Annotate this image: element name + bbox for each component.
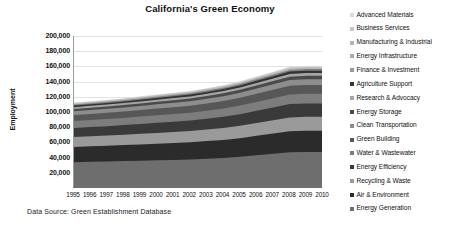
legend-swatch-icon [350, 110, 354, 114]
legend-item[interactable]: Energy Storage [350, 105, 460, 119]
x-axis-tick-labels: 1995199619971998199920002001200220032004… [73, 191, 322, 203]
legend-swatch-icon [350, 193, 354, 197]
legend-item[interactable]: Energy Infrastructure [350, 50, 460, 64]
x-tick-label: 1998 [114, 191, 132, 198]
y-tick-label: 20,000 [20, 169, 70, 176]
x-tick-label: 2003 [197, 191, 215, 198]
legend-item[interactable]: Air & Environment [350, 188, 460, 202]
x-tick-label: 2010 [313, 191, 331, 198]
legend-item[interactable]: Energy Efficiency [350, 160, 460, 174]
legend-item[interactable]: Energy Generation [350, 202, 460, 216]
x-tick-label: 2008 [280, 191, 298, 198]
x-tick-label: 2001 [164, 191, 182, 198]
y-axis-tick-labels: 20,00040,00060,00080,000100,000120,00014… [20, 30, 70, 195]
stacked-area-series [74, 36, 322, 188]
plot-area [73, 36, 322, 188]
legend-item[interactable]: Finance & Investment [350, 63, 460, 77]
legend-label: Energy Infrastructure [357, 53, 418, 60]
legend-swatch-icon [350, 27, 354, 31]
legend-swatch-icon [350, 179, 354, 183]
legend-label: Energy Efficiency [357, 164, 407, 171]
x-tick-label: 2005 [230, 191, 248, 198]
y-tick-label: 140,000 [20, 78, 70, 85]
y-tick-label: 200,000 [20, 32, 70, 39]
x-tick-label: 1995 [64, 191, 82, 198]
x-tick-label: 2004 [213, 191, 231, 198]
legend-item[interactable]: Business Services [350, 22, 460, 36]
legend-label: Energy Generation [357, 205, 412, 212]
legend-swatch-icon [350, 124, 354, 128]
x-tick-label: 2002 [180, 191, 198, 198]
x-tick-label: 2009 [296, 191, 314, 198]
y-tick-label: 160,000 [20, 62, 70, 69]
legend-swatch-icon [350, 165, 354, 169]
legend-label: Research & Advocacy [357, 95, 421, 102]
legend-label: Air & Environment [357, 192, 409, 199]
x-tick-label: 1999 [130, 191, 148, 198]
legend-label: Clean Transportation [357, 122, 417, 129]
legend-swatch-icon [350, 13, 354, 17]
legend-swatch-icon [350, 82, 354, 86]
legend-swatch-icon [350, 138, 354, 142]
legend-swatch-icon [350, 68, 354, 72]
y-tick-label: 120,000 [20, 93, 70, 100]
legend-item[interactable]: Manufacturing & Industrial [350, 36, 460, 50]
legend-label: Recycling & Waste [357, 178, 411, 185]
legend-label: Manufacturing & Industrial [357, 39, 432, 46]
legend-label: Green Building [357, 136, 400, 143]
legend-label: Energy Storage [357, 109, 402, 116]
x-tick-label: 1996 [81, 191, 99, 198]
x-tick-label: 2007 [263, 191, 281, 198]
legend-label: Advanced Materials [357, 12, 414, 19]
legend-swatch-icon [350, 207, 354, 211]
y-tick-label: 100,000 [20, 108, 70, 115]
legend-item[interactable]: Research & Advocacy [350, 91, 460, 105]
legend-item[interactable]: Green Building [350, 133, 460, 147]
x-tick-label: 2000 [147, 191, 165, 198]
legend-label: Agriculture Support [357, 81, 413, 88]
legend-label: Business Services [357, 25, 410, 32]
legend-item[interactable]: Clean Transportation [350, 119, 460, 133]
legend-swatch-icon [350, 151, 354, 155]
x-tick-label: 1997 [97, 191, 115, 198]
y-tick-label: 180,000 [20, 47, 70, 54]
legend-item[interactable]: Advanced Materials [350, 8, 460, 22]
legend-item[interactable]: Recycling & Waste [350, 174, 460, 188]
legend-item[interactable]: Water & Wastewater [350, 146, 460, 160]
legend-swatch-icon [350, 96, 354, 100]
y-axis-title: Employment [9, 79, 16, 141]
chart-container: California's Green Economy 20,00040,0006… [0, 0, 460, 227]
source-note: Data Source: Green Establishment Databas… [27, 208, 171, 215]
y-tick-label: 80,000 [20, 123, 70, 130]
legend-swatch-icon [350, 54, 354, 58]
legend-label: Finance & Investment [357, 67, 420, 74]
chart-title: California's Green Economy [110, 3, 310, 14]
legend-item[interactable]: Agriculture Support [350, 77, 460, 91]
x-tick-label: 2006 [247, 191, 265, 198]
chart-legend: Advanced MaterialsBusiness ServicesManuf… [350, 8, 460, 216]
y-tick-label: 40,000 [20, 154, 70, 161]
y-tick-label: 60,000 [20, 138, 70, 145]
legend-swatch-icon [350, 41, 354, 45]
legend-label: Water & Wastewater [357, 150, 416, 157]
